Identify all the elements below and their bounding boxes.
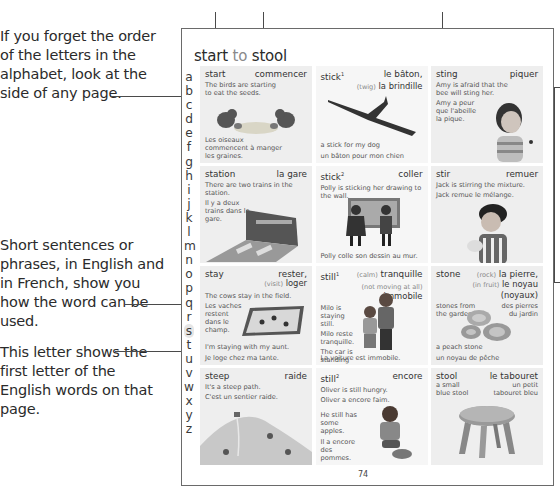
- alternate-translation: (twig) la brindille: [321, 82, 423, 93]
- entry-card-stick-1: stick1le bâton, (twig) la brindille a st…: [316, 66, 428, 163]
- headword: steep: [205, 371, 229, 381]
- entry-card-stone: stone(rock) la pierre, (in fruit) le noy…: [431, 266, 543, 365]
- headword: start: [205, 69, 226, 79]
- alphabet-letter: y: [184, 408, 194, 422]
- birds-eating-seeds-image: [212, 100, 300, 136]
- alphabet-letter: e: [184, 126, 194, 140]
- title-to: to: [233, 47, 248, 65]
- french-translation: remuer: [506, 169, 538, 179]
- steep-hill-image: [200, 406, 312, 465]
- example-french: Les oiseaux commencent à manger les grai…: [205, 136, 285, 160]
- example-french-2: un noyau de pêche: [436, 354, 538, 362]
- example-english: a small blue stool: [436, 381, 470, 397]
- boy-stirring-image: [461, 202, 517, 263]
- entry-grid: startcommencer The birds are starting to…: [200, 66, 543, 466]
- example-english: The birds are starting to eat the seeds.: [205, 81, 277, 97]
- alphabet-letter: j: [184, 197, 194, 211]
- alphabet-letter: i: [184, 183, 194, 197]
- headword: sting: [436, 69, 458, 79]
- french-translation: raide: [285, 371, 307, 381]
- leader-line-alphabet: [110, 96, 184, 97]
- french-translation: la gare: [277, 169, 307, 179]
- alphabet-letter: q: [184, 296, 194, 310]
- alphabet-letter: n: [184, 253, 194, 267]
- example-english: a stick for my dog: [321, 141, 423, 149]
- alphabet-letter: g: [184, 155, 194, 169]
- stick-image: [324, 94, 420, 136]
- alphabet-letter: h: [184, 169, 194, 183]
- entry-card-stir: stirremuer Jack is stirring the mixture.…: [431, 166, 543, 263]
- entry-card-stay: stayrester, (visit) loger The cows stay …: [200, 266, 312, 365]
- example-french: Amy a peur que l'abeille la pique.: [436, 99, 478, 123]
- annotation-alphabet: If you forget the order of the letters i…: [0, 27, 170, 103]
- example-english-2: a peach stone: [436, 343, 538, 351]
- entry-card-sting: stingpiquer Amy is afraid that the bee w…: [431, 66, 543, 163]
- entry-card-station: stationla gare There are two trains in t…: [200, 166, 312, 263]
- page-title: start to stool: [194, 47, 287, 65]
- example-french: Oliver a encore faim.: [321, 396, 423, 404]
- headword: stick1: [321, 69, 345, 82]
- headword: still2: [321, 371, 340, 384]
- alphabet-letter: t: [184, 338, 194, 352]
- alphabet-letter: b: [184, 84, 194, 98]
- example-english: Jack is stirring the mixture.: [436, 181, 538, 189]
- page-number: 74: [355, 470, 371, 479]
- french-translation: piquer: [510, 69, 538, 79]
- example-english: It's a steep path.: [205, 383, 307, 391]
- example-french-2: Il a encore des pommes.: [321, 438, 361, 462]
- alphabet-letter: v: [184, 366, 194, 380]
- example-french-2: Je loge chez ma tante.: [205, 354, 307, 362]
- example-english: Amy is afraid that the bee will sting he…: [436, 81, 508, 97]
- example-french-2: La voiture est immobile.: [321, 354, 423, 362]
- alphabet-letter: p: [184, 281, 194, 295]
- alphabet-letter: a: [184, 70, 194, 84]
- alphabet-letter: f: [184, 140, 194, 154]
- children-sticking-drawing-image: [338, 196, 404, 248]
- example-french: Les vaches restent dans le champ.: [205, 302, 245, 334]
- boys-standing-still-image: [358, 292, 398, 350]
- headword: stone: [436, 269, 460, 280]
- alphabet-letter: k: [184, 211, 194, 225]
- alphabet-letter: w: [184, 380, 194, 394]
- train-station-image: [206, 206, 306, 262]
- entry-card-start: startcommencer The birds are starting to…: [200, 66, 312, 163]
- alphabet-letter: m: [184, 239, 194, 253]
- french-translation: (calm) tranquille: [357, 269, 423, 282]
- stones-image: [457, 308, 517, 342]
- example-english: Milo is staying still.: [321, 304, 355, 328]
- example-french: C'est un sentier raide.: [205, 393, 307, 401]
- example-french: un bâton pour mon chien: [321, 152, 423, 160]
- example-english-2: He still has some apples.: [321, 411, 361, 435]
- example-english: Oliver is still hungry.: [321, 386, 423, 394]
- alphabet-letter: r: [184, 310, 194, 324]
- entry-card-stick-2: stick2coller Polly is sticking her drawi…: [316, 166, 428, 263]
- entry-card-still-1: still1(calm) tranquille (not moving at a…: [316, 266, 428, 365]
- headword: stay: [205, 269, 224, 279]
- french-translation: coller: [398, 169, 422, 182]
- entry-card-steep: steepraide It's a steep path. C'est un s…: [200, 368, 312, 465]
- annotation-letter: This letter shows the first letter of th…: [0, 343, 170, 419]
- alphabet-letter-current: s: [184, 324, 194, 338]
- headword: station: [205, 169, 235, 179]
- girl-and-bee-image: [481, 98, 539, 162]
- title-first-word: start: [194, 47, 228, 65]
- leader-line-letter: [115, 351, 187, 352]
- entry-card-stool: stoolle tabouret a small blue stool un p…: [431, 368, 543, 465]
- alphabet-letter: o: [184, 267, 194, 281]
- cows-in-field-image: [240, 304, 306, 338]
- headword: stick2: [321, 169, 345, 182]
- example-english: There are two trains in the station.: [205, 181, 307, 197]
- alternate-translation: (visit) loger: [205, 279, 307, 290]
- entry-card-still-2: still2encore Oliver is still hungry. Oli…: [316, 368, 428, 465]
- french-translation: commencer: [255, 69, 307, 79]
- alphabet-letter: c: [184, 98, 194, 112]
- headword: stool: [436, 371, 457, 381]
- alternate-translation: (in fruit) le noyau (noyaux): [436, 280, 538, 300]
- example-french: Jack remue le mélange.: [436, 191, 538, 199]
- example-french: Polly colle son dessin au mur.: [321, 252, 423, 260]
- headword: stir: [436, 169, 450, 179]
- alphabet-index: a b c d e f g h i j k l m n o p q r s t …: [184, 70, 194, 436]
- example-french: Milo reste tranquille.: [321, 330, 355, 346]
- title-last-word: stool: [252, 47, 287, 65]
- example-english: The cows stay in the field.: [205, 292, 307, 300]
